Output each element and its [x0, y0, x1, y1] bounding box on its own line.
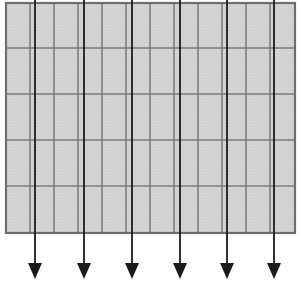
diagram-canvas [0, 0, 299, 288]
figure-root [0, 0, 299, 288]
grid-panel [6, 3, 295, 233]
